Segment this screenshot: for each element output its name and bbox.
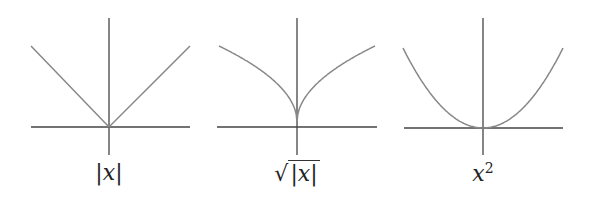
abs-curve	[31, 46, 190, 127]
label-sqrt-abs: √|x|	[237, 160, 357, 186]
panel-abs	[31, 18, 190, 155]
panel-sqrt-abs	[217, 18, 377, 155]
label-abs: |x|	[49, 160, 169, 185]
label-square: x2	[423, 160, 543, 186]
panel-square	[403, 18, 563, 155]
